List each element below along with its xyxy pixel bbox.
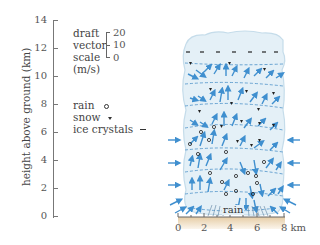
x-tick-label: 4 (227, 222, 233, 233)
x-tick-label: 2 (201, 222, 207, 233)
storm-cell-diagram (0, 0, 320, 245)
ground-rain-label: rain (222, 205, 244, 215)
x-tick-label: 6 (254, 222, 260, 233)
x-tick-label: 8 km (281, 222, 306, 233)
x-tick-label: 0 (175, 222, 181, 233)
